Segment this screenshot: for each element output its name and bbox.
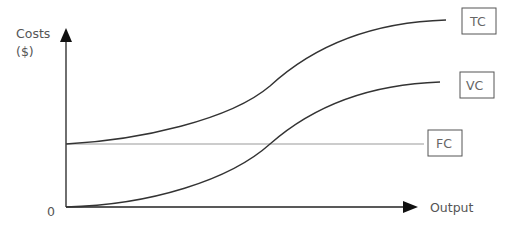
fc-label: FC bbox=[436, 136, 452, 151]
vc-label: VC bbox=[466, 78, 484, 93]
origin-label: 0 bbox=[47, 204, 55, 219]
y-axis-label-line1: Costs bbox=[16, 26, 50, 41]
fc-label-box: FC bbox=[428, 130, 462, 156]
tc-label: TC bbox=[469, 14, 486, 29]
x-axis-label: Output bbox=[430, 200, 474, 215]
x-axis-arrow-icon bbox=[403, 201, 418, 213]
y-axis-arrow-icon bbox=[60, 28, 72, 42]
y-axis-label-line2: ($) bbox=[16, 44, 34, 59]
tc-curve bbox=[66, 20, 446, 144]
cost-curves-diagram: TC VC FC Costs ($) Output 0 bbox=[0, 0, 524, 225]
tc-label-box: TC bbox=[462, 8, 496, 34]
vc-label-box: VC bbox=[460, 72, 494, 98]
